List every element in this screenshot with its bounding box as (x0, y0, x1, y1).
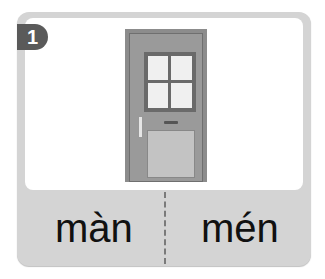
choice-right[interactable]: mén (201, 203, 279, 253)
door-frame (129, 33, 203, 182)
door-window (144, 52, 196, 112)
door-lower-panel (147, 130, 195, 178)
choice-left[interactable]: màn (55, 203, 133, 253)
dashed-divider (164, 192, 166, 264)
door-handle (138, 116, 143, 138)
door-illustration (125, 29, 207, 182)
mail-slot (164, 121, 178, 124)
number-badge: 1 (17, 24, 48, 50)
